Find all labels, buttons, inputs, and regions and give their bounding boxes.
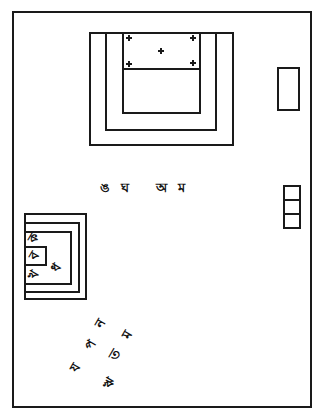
right-stack-cell-3 — [284, 214, 300, 228]
cross-mark — [190, 60, 196, 66]
middle-label-1: ঙ — [100, 181, 110, 194]
cross-mark — [158, 48, 164, 54]
right-stack-cell-2 — [284, 200, 300, 214]
cross-mark — [126, 61, 132, 67]
middle-label-4: ম — [178, 181, 185, 194]
right-tall-rect — [278, 68, 299, 110]
middle-label-3: অ — [156, 181, 167, 194]
cross-mark — [126, 35, 132, 41]
right-stack-cell-1 — [284, 186, 300, 200]
top-block-inner — [123, 33, 200, 113]
outer-border — [13, 12, 311, 407]
cross-mark — [190, 35, 196, 41]
floor-plan-diagram — [0, 0, 322, 418]
middle-label-2: ঘ — [121, 181, 129, 194]
